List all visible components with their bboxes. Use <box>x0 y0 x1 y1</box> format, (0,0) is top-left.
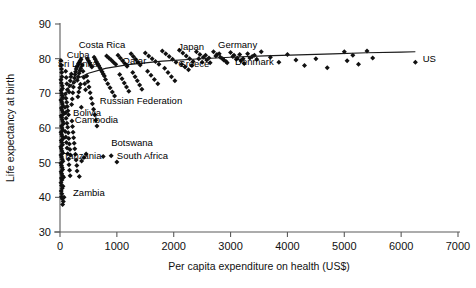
data-point <box>413 60 418 65</box>
x-tick-label: 2000 <box>161 240 185 252</box>
x-axis-title: Per capita expenditure on health (US$) <box>168 260 350 272</box>
y-axis-title: Life expectancy at birth <box>4 74 16 182</box>
data-point <box>72 141 77 146</box>
data-point <box>66 162 71 167</box>
point-label: Zambia <box>73 187 105 198</box>
data-point <box>167 54 172 59</box>
data-point <box>108 85 113 90</box>
data-point <box>74 163 79 168</box>
data-point <box>302 63 307 68</box>
point-label: Botswana <box>111 137 153 148</box>
data-point <box>122 80 127 85</box>
data-point <box>135 78 140 83</box>
data-point <box>119 76 124 81</box>
data-point <box>109 153 114 158</box>
data-point <box>77 85 82 90</box>
data-point <box>69 102 74 107</box>
x-tick-label: 4000 <box>275 240 299 252</box>
data-point <box>276 60 281 65</box>
data-point <box>169 74 174 79</box>
point-label: South Africa <box>117 150 169 161</box>
point-label: Qatar <box>123 55 147 66</box>
data-point <box>162 66 167 71</box>
data-points <box>58 48 418 207</box>
data-point <box>71 130 76 135</box>
data-point <box>70 96 75 101</box>
y-tick-label: 90 <box>39 18 51 30</box>
x-axis-ticks: 01000200030004000500060007000 <box>57 232 470 252</box>
x-tick-label: 1000 <box>105 240 129 252</box>
data-point <box>70 90 75 95</box>
data-point <box>137 83 142 88</box>
data-point <box>345 58 350 63</box>
data-point <box>67 168 72 173</box>
data-point <box>155 81 160 86</box>
scatter-chart: 30405060708090 0100020003000400050006000… <box>0 0 476 288</box>
y-tick-label: 60 <box>39 122 51 134</box>
data-point <box>64 100 69 105</box>
point-label: Denmark <box>235 56 274 67</box>
data-point <box>63 69 68 74</box>
data-point <box>146 53 151 58</box>
x-tick-label: 6000 <box>389 240 413 252</box>
data-point <box>69 119 74 124</box>
data-point <box>163 51 168 56</box>
data-point <box>126 89 131 94</box>
data-point <box>90 101 95 106</box>
y-tick-label: 80 <box>39 53 51 65</box>
point-label: Germany <box>218 39 257 50</box>
point-label: Russian Federation <box>100 95 182 106</box>
data-point <box>101 154 106 159</box>
chart-canvas: 30405060708090 0100020003000400050006000… <box>0 0 476 288</box>
y-tick-label: 50 <box>39 157 51 169</box>
x-tick-label: 0 <box>57 240 63 252</box>
data-point <box>356 62 361 67</box>
data-point <box>86 85 91 90</box>
point-label: Cambodia <box>75 114 119 125</box>
data-point <box>64 121 69 126</box>
point-label: Japan <box>178 41 204 52</box>
x-tick-label: 7000 <box>446 240 470 252</box>
y-tick-label: 30 <box>39 226 51 238</box>
data-point <box>370 55 375 60</box>
point-label: US <box>423 53 436 64</box>
data-point <box>105 81 110 86</box>
y-axis-ticks: 30405060708090 <box>39 18 60 238</box>
data-point <box>285 52 290 57</box>
data-point <box>76 89 81 94</box>
data-point <box>83 87 88 92</box>
data-point <box>166 70 171 75</box>
point-label: Tanzania <box>63 150 102 161</box>
data-point <box>156 62 161 67</box>
data-point <box>259 49 264 54</box>
data-point <box>172 78 177 83</box>
data-point <box>145 69 150 74</box>
data-point <box>71 135 76 140</box>
point-label: Greece <box>178 58 209 69</box>
data-point <box>150 56 155 61</box>
y-tick-label: 40 <box>39 191 51 203</box>
data-point <box>228 50 233 55</box>
x-tick-label: 5000 <box>332 240 356 252</box>
data-point <box>197 52 202 57</box>
point-label: Sri Lanka <box>58 58 99 69</box>
data-point <box>117 72 122 77</box>
data-point <box>77 174 82 179</box>
data-point <box>139 87 144 92</box>
axes-group <box>54 23 460 232</box>
data-point <box>293 58 298 63</box>
data-point <box>110 89 115 94</box>
data-point <box>152 77 157 82</box>
data-point <box>64 75 69 80</box>
data-point <box>211 49 216 54</box>
data-point <box>89 96 94 101</box>
data-point <box>68 173 73 178</box>
data-point <box>78 82 83 87</box>
y-tick-label: 70 <box>39 87 51 99</box>
data-point <box>160 49 165 54</box>
data-point <box>325 65 330 70</box>
data-point <box>75 168 80 173</box>
x-tick-label: 3000 <box>218 240 242 252</box>
data-point <box>130 70 135 75</box>
data-point <box>313 56 318 61</box>
